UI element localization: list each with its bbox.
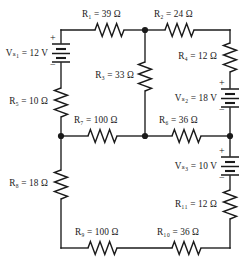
label-r2: R₂ = 24 Ω	[154, 10, 193, 19]
r7-zigzag	[88, 130, 117, 143]
label-r5: R₅ = 10 Ω	[0, 97, 48, 106]
r6-zigzag	[172, 130, 201, 143]
r11-zigzag	[224, 190, 237, 219]
vs1-plus-sign: +	[50, 33, 56, 43]
vs2-minus-sign: −	[219, 105, 225, 115]
label-r7: R₇ = 100 Ω	[74, 116, 118, 125]
label-r9: R₉ = 100 Ω	[75, 228, 119, 237]
vs1-minus-sign: −	[50, 60, 56, 70]
circuit-schematic-canvas	[0, 0, 247, 257]
label-r1: R₁ = 39 Ω	[82, 10, 121, 19]
label-r3: R₃ = 33 Ω	[78, 71, 134, 80]
label-r6: R₆ = 36 Ω	[159, 116, 198, 125]
r9-zigzag	[88, 242, 117, 255]
node-mid-middle	[142, 133, 148, 139]
r5-zigzag	[55, 88, 68, 117]
label-vs3: Vₛ₃ = 10 V	[152, 162, 217, 171]
vs2-plus-sign: +	[219, 78, 225, 88]
node-mid-right	[227, 133, 233, 139]
r4-zigzag	[224, 43, 237, 72]
r1-zigzag	[95, 24, 124, 37]
label-r8: R₈ = 18 Ω	[0, 179, 48, 188]
circuit-diagram: R₁ = 39 Ω R₂ = 24 Ω Vₛ₁ = 12 V + − R₅ = …	[0, 0, 247, 257]
node-mid-left	[58, 133, 64, 139]
vs3-minus-sign: −	[219, 173, 225, 183]
label-r11: R₁₁ = 12 Ω	[155, 200, 217, 209]
label-vs2: Vₛ₂ = 18 V	[152, 94, 217, 103]
r2-zigzag	[165, 24, 194, 37]
node-top-middle	[142, 27, 148, 33]
r8-zigzag	[55, 170, 68, 199]
vs3-plus-sign: +	[219, 146, 225, 156]
label-r4: R₄ = 12 Ω	[160, 52, 217, 61]
r10-zigzag	[172, 242, 201, 255]
label-r10: R₁₀ = 36 Ω	[157, 228, 199, 237]
r3-zigzag	[139, 62, 152, 91]
label-vs1: Vₛ₁ = 12 V	[0, 49, 48, 58]
